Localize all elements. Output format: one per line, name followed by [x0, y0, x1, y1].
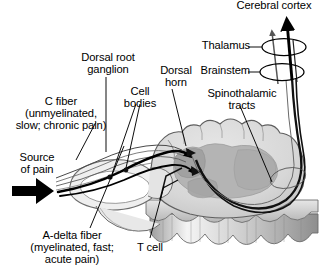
label-a-delta-fiber: A-delta fiber (myelinated, fast; acute p…	[14, 230, 130, 265]
label-dorsal-horn: Dorsal horn	[152, 65, 200, 89]
ascending-arrow-thick	[287, 22, 292, 80]
label-cerebral-cortex: Cerebral cortex	[224, 0, 324, 12]
label-c-fiber: C fiber (unmyelinated, slow; chronic pai…	[2, 96, 120, 131]
label-cell-bodies: Cell bodies	[118, 86, 162, 110]
pain-arrow-icon	[12, 178, 54, 204]
label-spinothalamic-tracts: Spinothalamic tracts	[198, 88, 286, 112]
label-thalamus: Thalamus	[196, 40, 250, 52]
brainstem-ring	[260, 64, 304, 81]
ascending-pathways	[272, 22, 297, 84]
cell-body-dot	[124, 168, 129, 173]
label-t-cell: T cell	[126, 242, 174, 254]
thalamus-ring	[262, 39, 306, 56]
label-source-of-pain: Source of pain	[8, 152, 66, 176]
label-dorsal-root-ganglion: Dorsal root ganglion	[62, 52, 154, 76]
pain-pathway-diagram: Cerebral cortex Thalamus Brainstem Dorsa…	[0, 0, 324, 278]
